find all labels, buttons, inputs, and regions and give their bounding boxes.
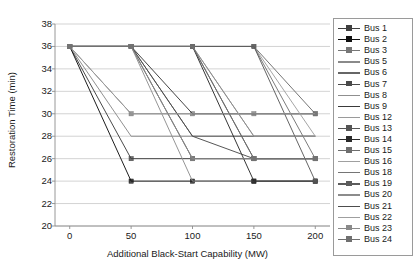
legend-item-label: Bus 7 (360, 79, 387, 90)
legend-item-label: Bus 16 (360, 156, 392, 167)
legend-item-label: Bus 24 (360, 234, 392, 245)
legend-item-label: Bus 13 (360, 123, 392, 134)
legend-item-bus-16[interactable]: Bus 16 (338, 156, 409, 167)
legend-item-bus-2[interactable]: Bus 2 (338, 34, 409, 45)
legend-swatch-icon (338, 156, 360, 167)
legend-item-bus-12[interactable]: Bus 12 (338, 112, 409, 123)
legend-item-bus-18[interactable]: Bus 18 (338, 167, 409, 178)
legend-line-icon (338, 217, 360, 218)
legend-item-bus-23[interactable]: Bus 23 (338, 223, 409, 234)
legend-square-marker-icon (346, 181, 352, 187)
legend-line-icon (338, 61, 360, 62)
legend-swatch-icon (338, 90, 360, 101)
legend-square-marker-icon (346, 36, 352, 42)
x-axis-label: Additional Black-Start Capability (MW) (55, 248, 320, 259)
series-line (70, 46, 316, 158)
legend-item-bus-6[interactable]: Bus 6 (338, 67, 409, 78)
legend-swatch-icon (338, 212, 360, 223)
legend-item-label: Bus 23 (360, 223, 392, 234)
legend-item-bus-22[interactable]: Bus 22 (338, 212, 409, 223)
legend-square-marker-icon (346, 125, 352, 131)
legend-item-label: Bus 18 (360, 167, 392, 178)
legend-swatch-icon (338, 34, 360, 45)
legend-item-bus-19[interactable]: Bus 19 (338, 178, 409, 189)
legend-line-icon (338, 194, 360, 195)
legend-item-label: Bus 12 (360, 112, 392, 123)
legend-swatch-icon (338, 134, 360, 145)
legend-swatch-icon (338, 223, 360, 234)
legend-item-bus-21[interactable]: Bus 21 (338, 201, 409, 212)
legend-swatch-icon (338, 79, 360, 90)
legend-item-bus-24[interactable]: Bus 24 (338, 234, 409, 245)
legend-swatch-icon (338, 123, 360, 134)
legend-swatch-icon (338, 189, 360, 200)
legend-item-label: Bus 6 (360, 67, 387, 78)
legend-line-icon (338, 72, 360, 73)
legend-line-icon (338, 206, 360, 207)
legend-line-icon (338, 106, 360, 107)
legend-item-label: Bus 8 (360, 90, 387, 101)
legend-swatch-icon (338, 101, 360, 112)
legend-line-icon (338, 172, 360, 173)
legend-square-marker-icon (346, 147, 352, 153)
legend-swatch-icon (338, 178, 360, 189)
legend-item-label: Bus 14 (360, 134, 392, 145)
legend-square-marker-icon (346, 81, 352, 87)
legend-square-marker-icon (346, 136, 352, 142)
legend-item-bus-20[interactable]: Bus 20 (338, 189, 409, 200)
legend-swatch-icon (338, 67, 360, 78)
legend-item-label: Bus 20 (360, 189, 392, 200)
legend-item-bus-14[interactable]: Bus 14 (338, 134, 409, 145)
legend-swatch-icon (338, 201, 360, 212)
legend-item-label: Bus 5 (360, 56, 387, 67)
legend-item-label: Bus 9 (360, 101, 387, 112)
legend-swatch-icon (338, 112, 360, 123)
legend-line-icon (338, 117, 360, 118)
legend-line-icon (338, 95, 360, 96)
legend-item-bus-7[interactable]: Bus 7 (338, 78, 409, 89)
legend-square-marker-icon (346, 25, 352, 31)
legend-swatch-icon (338, 234, 360, 245)
legend-item-label: Bus 21 (360, 201, 392, 212)
legend-item-label: Bus 15 (360, 145, 392, 156)
legend-item-label: Bus 3 (360, 45, 387, 56)
legend-item-bus-13[interactable]: Bus 13 (338, 123, 409, 134)
legend-item-bus-8[interactable]: Bus 8 (338, 90, 409, 101)
legend-square-marker-icon (346, 47, 352, 53)
legend-item-label: Bus 22 (360, 212, 392, 223)
series-line (68, 44, 318, 116)
series-line (70, 46, 316, 113)
x-tick-label: 100 (175, 230, 211, 241)
legend-swatch-icon (338, 145, 360, 156)
legend-item-bus-1[interactable]: Bus 1 (338, 23, 409, 34)
legend-swatch-icon (338, 56, 360, 67)
x-tick-label: 200 (297, 230, 333, 241)
series-line (70, 46, 316, 113)
legend-line-icon (338, 161, 360, 162)
series-line (68, 44, 318, 116)
series-line (70, 46, 316, 158)
legend-swatch-icon (338, 23, 360, 34)
legend-item-bus-9[interactable]: Bus 9 (338, 101, 409, 112)
legend-item-label: Bus 19 (360, 178, 392, 189)
legend-swatch-icon (338, 167, 360, 178)
chart-figure: Restoration Time (min) 38363432302826242… (0, 0, 420, 271)
legend-item-bus-15[interactable]: Bus 15 (338, 145, 409, 156)
legend-item-bus-5[interactable]: Bus 5 (338, 56, 409, 67)
legend-item-bus-3[interactable]: Bus 3 (338, 45, 409, 56)
legend-item-label: Bus 1 (360, 23, 387, 34)
chart-legend: Bus 1Bus 2Bus 3Bus 5Bus 6Bus 7Bus 8Bus 9… (333, 18, 413, 256)
x-tick-label: 150 (236, 230, 272, 241)
x-tick-label: 0 (52, 230, 88, 241)
legend-square-marker-icon (346, 225, 352, 231)
legend-item-label: Bus 2 (360, 34, 387, 45)
legend-swatch-icon (338, 45, 360, 56)
x-tick-label: 50 (113, 230, 149, 241)
legend-square-marker-icon (346, 236, 352, 242)
